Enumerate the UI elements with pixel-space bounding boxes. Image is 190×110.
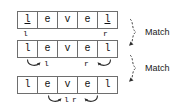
letter-cell: e: [77, 76, 98, 94]
word-row-step-1: l e v e l: [17, 11, 118, 29]
left-pointer-label-step-3: l: [64, 96, 69, 104]
letter-cell: l: [17, 11, 38, 29]
letter-cell: v: [57, 40, 78, 58]
right-pointer-label-step-1: r: [103, 30, 108, 38]
match-label-2: Match: [145, 64, 170, 73]
letter-cell: e: [37, 76, 58, 94]
right-pointer-move-arrow-step-3: [79, 94, 99, 104]
letter-cell: e: [37, 40, 58, 58]
left-pointer-label-step-2: l: [44, 60, 49, 68]
word-row-step-2: l e v e l: [17, 40, 118, 58]
letter-cell: l: [97, 11, 118, 29]
right-pointer-move-arrow-step-2: [92, 58, 112, 68]
letter-cell: e: [37, 11, 58, 29]
left-pointer-move-arrow-step-2: [26, 58, 46, 68]
curly-brace-match-2: [128, 54, 140, 82]
letter-cell: l: [97, 76, 118, 94]
palindrome-diagram: l e v e l l r l e v e l l r l e v e l l …: [0, 0, 190, 110]
word-row-step-3: l e v e l: [17, 76, 118, 94]
match-label-1: Match: [145, 28, 170, 37]
letter-cell: v: [57, 11, 78, 29]
right-pointer-label-step-3: r: [72, 96, 77, 104]
letter-cell: v: [57, 76, 78, 94]
letter-cell: e: [77, 40, 98, 58]
curly-brace-match-1: [128, 18, 140, 46]
letter-cell: l: [17, 76, 38, 94]
right-pointer-label-step-2: r: [84, 60, 89, 68]
left-pointer-label-step-1: l: [23, 30, 28, 38]
letter-cell: l: [97, 40, 118, 58]
letter-cell: l: [17, 40, 38, 58]
letter-cell: e: [77, 11, 98, 29]
